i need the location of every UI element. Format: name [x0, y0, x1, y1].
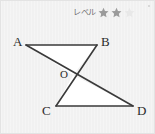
geometry-problem-card: レベル A B [0, 0, 155, 134]
vertex-label-O: O [60, 69, 68, 80]
geometry-figure: A B O C D [1, 1, 154, 133]
vertex-label-A: A [13, 35, 22, 48]
vertex-label-C: C [42, 104, 51, 117]
vertex-label-D: D [137, 104, 146, 117]
vertex-label-B: B [101, 35, 110, 48]
